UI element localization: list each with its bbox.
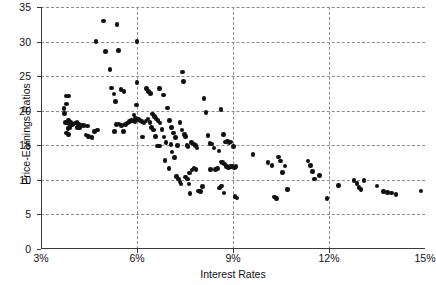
data-point [217, 149, 222, 154]
y-axis-tick-label: 35 [19, 1, 31, 13]
gridline-vertical [329, 7, 330, 249]
data-point [95, 128, 100, 133]
data-point [112, 92, 117, 97]
data-point [109, 86, 114, 91]
data-point [195, 146, 200, 151]
data-point [173, 135, 178, 140]
data-point [235, 196, 240, 201]
data-point [140, 135, 145, 140]
data-point [94, 39, 99, 44]
data-point [222, 191, 227, 196]
y-axis-tick-label: 30 [19, 36, 31, 48]
x-axis-tick-label: 6% [129, 252, 144, 264]
data-point [194, 167, 199, 172]
data-point [85, 124, 90, 129]
data-point [90, 135, 95, 140]
y-axis-tick-label: 0 [25, 243, 31, 255]
data-point [317, 173, 322, 178]
data-point [160, 127, 165, 132]
data-point [219, 184, 224, 189]
data-point [278, 159, 283, 164]
data-point [66, 132, 71, 137]
data-point [202, 96, 207, 101]
data-point [394, 192, 399, 197]
data-point [170, 150, 175, 155]
data-point [122, 89, 127, 94]
data-point [103, 49, 108, 54]
data-point [169, 142, 174, 147]
data-point [231, 144, 236, 149]
data-point [158, 121, 163, 126]
data-point [285, 187, 290, 192]
data-point [280, 170, 285, 175]
data-point [169, 125, 174, 130]
data-point [183, 134, 188, 139]
x-axis-tick-label: 3% [33, 252, 48, 264]
data-point [198, 189, 203, 194]
data-point [181, 79, 186, 84]
data-point [66, 94, 71, 99]
data-point [221, 132, 226, 137]
data-point [212, 146, 217, 151]
data-point [164, 140, 169, 145]
y-axis-title: Price-Earnings Ratios [20, 54, 32, 214]
data-point [161, 93, 166, 98]
data-point [188, 191, 193, 196]
data-point [270, 163, 275, 168]
data-point [112, 129, 117, 134]
data-point [167, 118, 172, 123]
data-point [312, 177, 317, 182]
x-axis-title: Interest Rates [41, 268, 425, 280]
y-axis-tick [37, 249, 41, 250]
data-point [108, 67, 113, 72]
data-point [219, 107, 224, 112]
data-point [204, 110, 209, 115]
data-point [153, 134, 158, 139]
x-axis-tick-label: 12% [318, 252, 339, 264]
data-point [362, 178, 367, 183]
data-point [179, 182, 184, 187]
data-point [310, 169, 315, 174]
data-point [208, 167, 213, 172]
data-point [175, 143, 180, 148]
data-point [148, 91, 153, 96]
data-point [135, 39, 140, 44]
data-point [115, 22, 120, 27]
data-point [308, 163, 313, 168]
data-point [135, 80, 140, 85]
data-point [121, 129, 126, 134]
data-point [113, 99, 118, 104]
data-point [375, 184, 380, 189]
gridline-vertical [233, 7, 234, 249]
data-point [151, 128, 156, 133]
data-point [336, 183, 341, 188]
data-point [157, 144, 162, 149]
data-point [64, 102, 69, 107]
data-point [62, 111, 67, 116]
plot-area [41, 7, 425, 249]
data-point [234, 164, 239, 169]
data-point [178, 120, 183, 125]
data-point [172, 155, 177, 160]
data-point [157, 86, 162, 91]
data-point [283, 164, 288, 169]
data-point [206, 133, 211, 138]
data-point [186, 144, 191, 149]
data-point [167, 166, 172, 171]
data-point [116, 48, 121, 53]
scatter-plot-figure: 05101520253035 Price-Earnings Ratios 3%6… [0, 0, 436, 285]
y-axis-line [41, 7, 42, 249]
data-point [101, 19, 106, 24]
data-point [180, 70, 185, 75]
data-point [165, 106, 170, 111]
data-point [359, 187, 364, 192]
data-point [163, 158, 168, 163]
data-point [419, 189, 424, 194]
data-point [251, 152, 256, 157]
data-point [274, 196, 279, 201]
data-point [162, 135, 167, 140]
x-axis-tick-label: 9% [225, 252, 240, 264]
x-axis-tick-label: 15% [414, 252, 435, 264]
x-axis-line [41, 248, 425, 249]
data-point [215, 166, 220, 171]
